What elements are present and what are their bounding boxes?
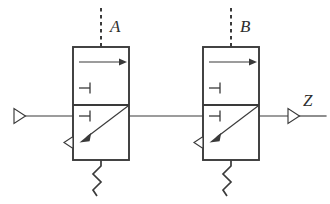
triangle-left-icon-a	[64, 137, 73, 149]
net-input	[14, 109, 74, 124]
stage-b: B	[194, 8, 259, 196]
output-label-z: Z	[303, 91, 313, 110]
zigzag-icon-b	[223, 160, 231, 196]
control-label-b: B	[240, 17, 251, 36]
circuit-diagram: A B	[0, 0, 330, 204]
control-label-a: A	[109, 17, 121, 36]
net-output	[258, 109, 326, 124]
diagram-canvas: A B	[0, 0, 330, 204]
zigzag-icon-a	[93, 160, 101, 196]
stage-a: A	[64, 8, 129, 196]
triangle-right-icon-input	[14, 109, 26, 124]
triangle-right-icon-output	[288, 109, 300, 124]
triangle-left-icon-b	[194, 137, 203, 149]
